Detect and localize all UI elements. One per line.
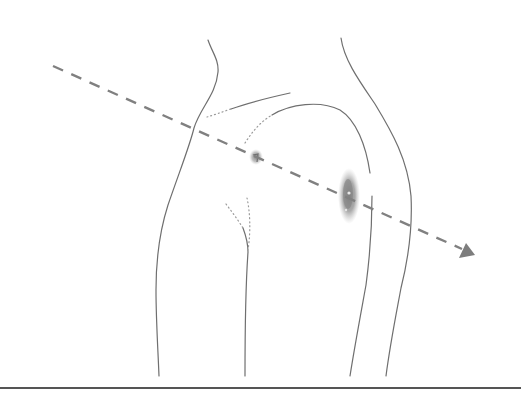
waist-line	[231, 93, 290, 109]
buttock-arc	[272, 104, 370, 173]
inner-thigh-line	[350, 196, 372, 376]
trajectory-arrowhead-icon	[459, 243, 475, 258]
exit-wound	[338, 168, 360, 224]
trajectory-line	[53, 66, 462, 249]
waist-line-dotted	[207, 109, 231, 117]
left-body-contour	[156, 40, 218, 376]
crotch-line	[243, 228, 248, 376]
diagram-canvas	[0, 0, 521, 399]
buttock-arc-dotted	[245, 115, 272, 143]
wound-trajectory-diagram	[0, 0, 521, 399]
crotch-dotted-left	[226, 204, 243, 228]
